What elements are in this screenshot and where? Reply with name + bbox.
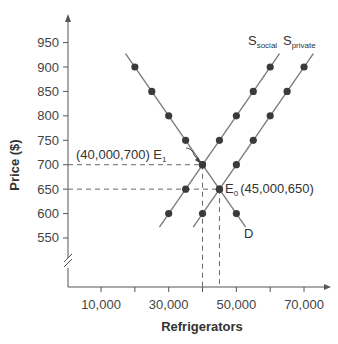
data-point	[233, 210, 240, 217]
s-social-label: Ssocial	[248, 33, 277, 50]
data-point	[216, 186, 223, 193]
y-tick-label: 550	[37, 230, 59, 245]
y-axis-arrow-icon	[65, 14, 71, 22]
y-tick-label: 800	[37, 108, 59, 123]
y-tick-label: 900	[37, 60, 59, 75]
y-tick-label: 950	[37, 35, 59, 50]
x-tick-label: 10,000	[81, 297, 121, 312]
x-tick-label: 50,000	[216, 297, 256, 312]
data-point	[148, 88, 155, 95]
data-point	[267, 112, 274, 119]
data-point	[233, 112, 240, 119]
data-point	[165, 210, 172, 217]
x-axis-arrow-icon	[324, 284, 331, 290]
data-point	[250, 137, 257, 144]
y-tick-label: 700	[37, 157, 59, 172]
e1-annotation: (40,000,700) E1	[76, 147, 167, 164]
data-point	[216, 137, 223, 144]
data-point	[300, 63, 307, 70]
data-point	[267, 63, 274, 70]
data-point	[250, 88, 257, 95]
e0-annotation: E0(45,000,650)	[225, 181, 314, 198]
s-private-label: Sprivate	[283, 33, 316, 50]
data-point	[233, 161, 240, 168]
data-point	[182, 137, 189, 144]
x-tick-label: 30,000	[149, 297, 189, 312]
tick-labels: 55060065070075080085090095010,00030,0005…	[37, 35, 324, 312]
y-tick-label: 750	[37, 133, 59, 148]
data-point	[284, 88, 291, 95]
y-tick-label: 850	[37, 84, 59, 99]
x-tick-label: 70,000	[284, 297, 324, 312]
data-point	[165, 112, 172, 119]
reference-lines	[68, 165, 219, 287]
y-tick-label: 650	[37, 182, 59, 197]
x-axis-title: Refrigerators	[161, 319, 243, 334]
data-point	[131, 63, 138, 70]
supply-demand-chart: 55060065070075080085090095010,00030,0005…	[0, 0, 338, 344]
data-point	[182, 186, 189, 193]
data-point	[199, 210, 206, 217]
y-axis-title: Price ($)	[7, 139, 22, 190]
y-tick-label: 600	[37, 206, 59, 221]
demand-label: D	[244, 226, 253, 241]
